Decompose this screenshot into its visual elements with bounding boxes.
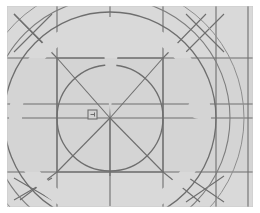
diagram-canvas: Geometric Construction Diagram: [0, 0, 260, 213]
center-square-marker: [88, 110, 97, 119]
geometric-diagram: [0, 0, 260, 213]
